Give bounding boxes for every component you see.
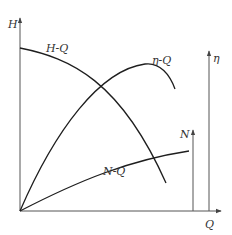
n-axis: N xyxy=(179,128,193,211)
h-axis: H xyxy=(7,18,20,211)
etaq-curve: η-Q xyxy=(20,54,175,211)
nq-curve-label: N-Q xyxy=(102,165,125,178)
etaq-curve-label: η-Q xyxy=(152,54,171,67)
eta-axis-label: η xyxy=(213,52,220,65)
n-axis-label: N xyxy=(179,128,190,141)
h-axis-label: H xyxy=(7,18,18,31)
pump-characteristic-diagram: H Q η N H-Q η-Q N-Q xyxy=(0,0,232,235)
q-axis-label: Q xyxy=(205,218,214,231)
hq-curve: H-Q xyxy=(20,42,166,183)
eta-axis: η xyxy=(209,51,220,211)
q-axis: Q xyxy=(20,211,221,231)
hq-curve-label: H-Q xyxy=(45,42,68,55)
